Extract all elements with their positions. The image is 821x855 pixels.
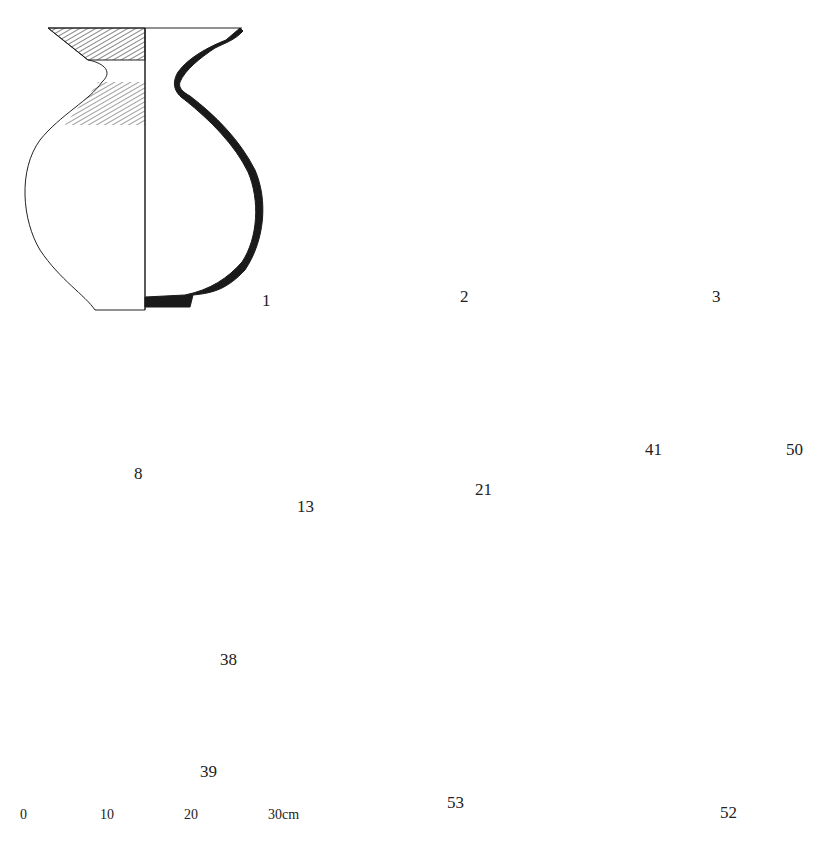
vessel-label-53: 53 <box>447 793 464 813</box>
vessel-label-52: 52 <box>720 803 737 823</box>
scale-label-0: 0 <box>20 807 27 823</box>
vessel-label-1: 1 <box>262 291 271 311</box>
vessel-label-13: 13 <box>297 497 314 517</box>
vessel-label-21: 21 <box>475 480 492 500</box>
vessel-1 <box>25 28 263 310</box>
scale-label-30cm: 30cm <box>268 807 299 823</box>
vessel-label-8: 8 <box>134 464 143 484</box>
vessel-label-38: 38 <box>220 650 237 670</box>
pottery-plate <box>0 0 821 855</box>
vessel-label-3: 3 <box>712 287 721 307</box>
vessel-label-50: 50 <box>786 440 803 460</box>
scale-label-20: 20 <box>184 807 198 823</box>
vessel-label-41: 41 <box>645 440 662 460</box>
vessel-label-39: 39 <box>200 762 217 782</box>
vessel-label-2: 2 <box>460 287 469 307</box>
scale-label-10: 10 <box>100 807 114 823</box>
